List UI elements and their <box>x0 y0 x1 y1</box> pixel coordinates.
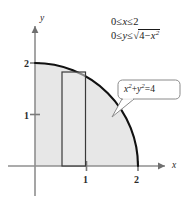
representative-rectangle <box>62 72 86 166</box>
radicand-exponent: 2 <box>156 29 160 37</box>
radical-expression: √4−x2 <box>133 31 160 42</box>
callout-rhs: 4 <box>150 84 155 94</box>
radicand: 4−x2 <box>138 29 160 41</box>
math-figure: 0≤x≤2 0≤y≤√4−x2 x2+y2=4 2 1 1 2 y x <box>0 0 193 204</box>
x-tick-label-1: 1 <box>83 174 88 185</box>
y-axis-arrowhead <box>32 26 39 33</box>
shaded-region <box>35 63 138 166</box>
callout-equation: x2+y2=4 <box>124 84 155 94</box>
ineq1-bound: 2 <box>133 16 138 27</box>
y-tick-label-2: 2 <box>24 58 29 69</box>
inequality-line-1: 0≤x≤2 <box>111 17 139 28</box>
x-tick-label-2: 2 <box>134 174 139 185</box>
y-axis-label: y <box>40 13 44 23</box>
plot-canvas <box>0 0 193 204</box>
x-axis-arrowhead <box>158 163 165 170</box>
y-tick-label-1: 1 <box>24 110 29 121</box>
x-axis-label: x <box>172 160 176 170</box>
inequality-line-2: 0≤y≤√4−x2 <box>111 31 160 42</box>
